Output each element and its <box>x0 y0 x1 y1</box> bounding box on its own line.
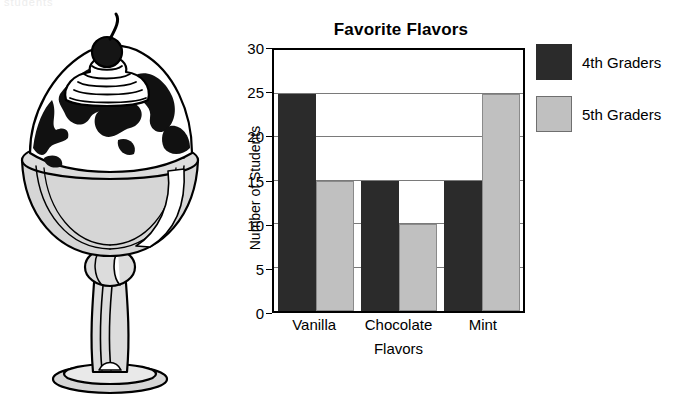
x-label-mint: Mint <box>441 316 525 333</box>
chart-title: Favorite Flavors <box>272 20 530 40</box>
bar-group-mint <box>440 50 523 311</box>
x-label-vanilla: Vanilla <box>272 316 356 333</box>
bar-groups <box>274 50 523 311</box>
y-tick-0 <box>266 313 272 314</box>
ice-cream-sundae-illustration <box>0 8 240 404</box>
cropped-text-fragment: students <box>4 0 54 8</box>
legend-swatch-4th-graders <box>536 44 572 80</box>
y-tick-label-10: 10 <box>226 216 264 233</box>
legend-item: 5th Graders <box>536 96 661 132</box>
y-tick-label-25: 25 <box>226 84 264 101</box>
x-axis-title: Flavors <box>272 340 525 357</box>
legend-item: 4th Graders <box>536 44 661 80</box>
legend-swatch-5th-graders <box>536 96 572 132</box>
y-tick-label-5: 5 <box>226 260 264 277</box>
bar-group-vanilla <box>274 50 357 311</box>
bar-chocolate-5th-graders <box>399 224 437 311</box>
bar-mint-5th-graders <box>482 94 520 312</box>
x-label-chocolate: Chocolate <box>356 316 440 333</box>
legend-label-4th-graders: 4th Graders <box>582 54 661 71</box>
plot-area <box>272 48 525 313</box>
bar-chocolate-4th-graders <box>361 181 399 312</box>
y-tick-label-15: 15 <box>226 172 264 189</box>
y-tick-label-0: 0 <box>226 305 264 322</box>
y-tick-label-20: 20 <box>226 128 264 145</box>
bar-chart: Favorite Flavors Number of Students 0510… <box>226 18 682 378</box>
bar-vanilla-5th-graders <box>316 181 354 312</box>
worksheet-page: students <box>0 0 682 404</box>
bar-vanilla-4th-graders <box>278 94 316 312</box>
bar-mint-4th-graders <box>444 181 482 312</box>
chart-legend: 4th Graders 5th Graders <box>536 44 661 148</box>
y-axis: 051015202530 <box>226 18 272 348</box>
x-axis-category-labels: VanillaChocolateMint <box>272 316 525 333</box>
legend-label-5th-graders: 5th Graders <box>582 106 661 123</box>
bar-group-chocolate <box>357 50 440 311</box>
y-tick-label-30: 30 <box>226 40 264 57</box>
